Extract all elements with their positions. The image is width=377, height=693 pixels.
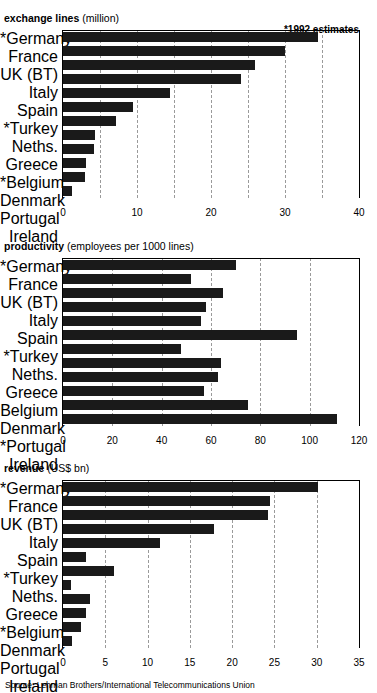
bar xyxy=(63,186,72,197)
x-tick-label: 30 xyxy=(279,208,290,218)
plot-area-3: *GermanyFranceUK (BT)ItalySpain*TurkeyNe… xyxy=(0,480,377,648)
figure-root: Source: Lehman Brothers/International Te… xyxy=(0,0,377,693)
bar xyxy=(63,636,72,647)
bar xyxy=(63,32,318,43)
category-label: Portugal xyxy=(0,660,58,678)
bar xyxy=(63,344,181,355)
x-tick-label: 120 xyxy=(351,436,368,446)
chart-title-main-2: productivity xyxy=(4,240,64,252)
bar xyxy=(63,274,191,285)
bar xyxy=(63,130,95,141)
bar xyxy=(63,330,297,341)
bar xyxy=(63,60,255,71)
chart-title-main-3: revenue xyxy=(4,462,44,474)
plot-area-1: *GermanyFranceUK (BT)ItalySpain*TurkeyNe… xyxy=(0,30,377,198)
x-tick-label: 10 xyxy=(142,658,153,668)
bar xyxy=(63,316,201,327)
x-tick-label: 35 xyxy=(353,658,364,668)
category-label: France xyxy=(0,276,58,294)
category-label: Greece xyxy=(0,156,58,174)
x-tick-label: 80 xyxy=(255,436,266,446)
bar xyxy=(63,372,218,383)
chart-title-3: revenue (US$ bn) xyxy=(4,462,89,474)
bar xyxy=(63,88,170,99)
category-label: *Portugal xyxy=(0,438,58,456)
x-tick-label: 0 xyxy=(60,436,66,446)
bar xyxy=(63,594,90,605)
x-tick-label: 20 xyxy=(107,436,118,446)
category-label: Ireland xyxy=(0,678,58,693)
category-label: Italy xyxy=(0,534,58,552)
bar xyxy=(63,260,236,271)
plot-right-border xyxy=(359,480,360,648)
category-label: UK (BT) xyxy=(0,294,58,312)
chart-title-unit-3: (US$ bn) xyxy=(47,462,89,474)
category-label: Italy xyxy=(0,312,58,330)
x-tick-label: 40 xyxy=(353,208,364,218)
bar xyxy=(63,482,318,493)
bar xyxy=(63,414,337,425)
category-label: Spain xyxy=(0,102,58,120)
gridline xyxy=(285,30,286,198)
category-label: *Germany xyxy=(0,258,58,276)
category-label: Portugal xyxy=(0,210,58,228)
x-tick-label: 100 xyxy=(301,436,318,446)
gridline xyxy=(274,480,275,648)
x-tick-label: 5 xyxy=(103,658,109,668)
x-tick-label: 20 xyxy=(205,208,216,218)
category-label: *Belgium xyxy=(0,174,58,192)
bar xyxy=(63,608,86,619)
category-label: Belgium xyxy=(0,402,58,420)
category-label: *Turkey xyxy=(0,348,58,366)
bar xyxy=(63,496,270,507)
x-tick-label: 60 xyxy=(205,436,216,446)
bar xyxy=(63,400,248,411)
category-label: Neths. xyxy=(0,366,58,384)
category-label: UK (BT) xyxy=(0,516,58,534)
category-label: Denmark xyxy=(0,642,58,660)
chart-title-2: productivity (employees per 1000 lines) xyxy=(4,240,194,252)
bar xyxy=(63,622,81,633)
x-tick-label: 20 xyxy=(227,658,238,668)
bar xyxy=(63,144,94,155)
bar xyxy=(63,358,221,369)
bar xyxy=(63,102,133,113)
bar xyxy=(63,116,116,127)
category-label: Spain xyxy=(0,552,58,570)
bar xyxy=(63,172,85,183)
category-label: UK (BT) xyxy=(0,66,58,84)
x-tick-label: 0 xyxy=(60,208,66,218)
category-label: *Belgium xyxy=(0,624,58,642)
bar xyxy=(63,566,114,577)
category-label: *Turkey xyxy=(0,570,58,588)
category-label: Neths. xyxy=(0,588,58,606)
category-label: Neths. xyxy=(0,138,58,156)
chart-title-main-1: exchange lines xyxy=(4,12,79,24)
category-label: Denmark xyxy=(0,192,58,210)
gridline xyxy=(260,258,261,426)
bar xyxy=(63,538,160,549)
bar xyxy=(63,302,206,313)
plot-area-2: *GermanyFranceUK (BT)ItalySpain*TurkeyNe… xyxy=(0,258,377,426)
category-label: Greece xyxy=(0,606,58,624)
chart-title-unit-2: (employees per 1000 lines) xyxy=(67,240,194,252)
x-tick-label: 30 xyxy=(311,658,322,668)
plot-right-border xyxy=(359,30,360,198)
category-label: *Turkey xyxy=(0,120,58,138)
bar xyxy=(63,46,285,57)
bar xyxy=(63,552,86,563)
x-tick-label: 40 xyxy=(156,436,167,446)
category-label: France xyxy=(0,48,58,66)
bar xyxy=(63,74,241,85)
bar xyxy=(63,386,204,397)
gridline xyxy=(322,30,323,198)
bar xyxy=(63,288,223,299)
category-label: *Germany xyxy=(0,480,58,498)
x-tick-label: 25 xyxy=(269,658,280,668)
bar xyxy=(63,580,71,591)
x-tick-label: 15 xyxy=(184,658,195,668)
category-label: Denmark xyxy=(0,420,58,438)
chart-title-1: exchange lines (million) xyxy=(4,12,119,24)
x-tick-label: 0 xyxy=(60,658,66,668)
x-tick-label: 10 xyxy=(131,208,142,218)
